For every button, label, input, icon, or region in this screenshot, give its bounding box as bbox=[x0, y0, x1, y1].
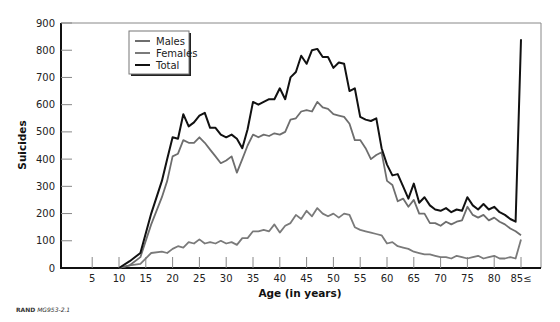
x-axis-title: Age (in years) bbox=[258, 287, 341, 299]
y-tick-label: 300 bbox=[36, 181, 55, 192]
y-axis: 0100200300400500600700800900 bbox=[36, 18, 72, 274]
legend-label-females: Females bbox=[156, 48, 197, 59]
x-tick-label: 80 bbox=[488, 273, 501, 284]
y-tick-label: 600 bbox=[36, 99, 55, 110]
x-tick-label: 25 bbox=[193, 273, 206, 284]
series-females-line bbox=[119, 208, 521, 268]
x-tick-label: 15 bbox=[139, 273, 152, 284]
line-chart: 0100200300400500600700800900 51015202530… bbox=[0, 0, 560, 322]
x-tick-label: 40 bbox=[273, 273, 286, 284]
x-tick-label: 55 bbox=[354, 273, 367, 284]
figure-credit: RAND MG953-2.1 bbox=[16, 306, 70, 313]
y-tick-label: 100 bbox=[36, 235, 55, 246]
x-tick-label: 70 bbox=[434, 273, 447, 284]
x-tick-label: 20 bbox=[166, 273, 179, 284]
x-tick-label: 10 bbox=[113, 273, 126, 284]
legend: MalesFemalesTotal bbox=[129, 31, 197, 76]
x-axis: 510152025303540455055606570758085≤ bbox=[89, 257, 532, 284]
figure-code: MG953-2.1 bbox=[37, 306, 70, 313]
x-tick-label: 75 bbox=[461, 273, 474, 284]
y-tick-label: 0 bbox=[49, 263, 55, 274]
legend-label-total: Total bbox=[155, 60, 179, 71]
x-tick-label: 35 bbox=[247, 273, 260, 284]
y-tick-label: 400 bbox=[36, 154, 55, 165]
y-tick-label: 500 bbox=[36, 126, 55, 137]
y-tick-label: 200 bbox=[36, 208, 55, 219]
x-tick-label: 30 bbox=[220, 273, 233, 284]
x-tick-label: 60 bbox=[381, 273, 394, 284]
x-tick-label: 45 bbox=[300, 273, 313, 284]
x-tick-label: 5 bbox=[89, 273, 95, 284]
x-tick-label: 65 bbox=[407, 273, 420, 284]
y-axis-title: Suicides bbox=[16, 120, 28, 169]
series-males-line bbox=[119, 102, 521, 268]
y-tick-label: 900 bbox=[36, 18, 55, 29]
legend-label-males: Males bbox=[156, 36, 185, 47]
y-tick-label: 800 bbox=[36, 45, 55, 56]
credit-org: RAND bbox=[16, 306, 35, 313]
y-tick-label: 700 bbox=[36, 72, 55, 83]
x-tick-label: 50 bbox=[327, 273, 340, 284]
x-tick-label: 85≤ bbox=[510, 273, 531, 284]
